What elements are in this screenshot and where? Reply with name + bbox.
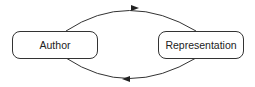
- node-representation: Representation: [158, 31, 244, 59]
- arrowhead-top-icon: [131, 5, 139, 11]
- arrowhead-bottom-icon: [122, 76, 130, 82]
- node-representation-label: Representation: [165, 39, 236, 51]
- arrow-representation-to-author: [66, 58, 196, 79]
- node-author-label: Author: [40, 39, 71, 51]
- arrow-author-to-representation: [66, 11, 196, 32]
- node-author: Author: [12, 31, 98, 59]
